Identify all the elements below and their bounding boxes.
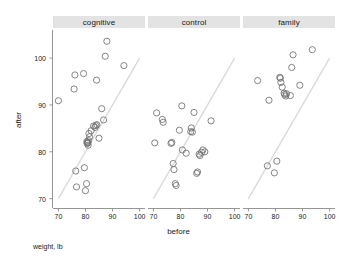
data-point xyxy=(191,109,197,115)
data-point xyxy=(83,181,89,187)
data-point xyxy=(309,47,315,53)
data-point xyxy=(152,140,158,146)
x-axis-tick-label: 90 xyxy=(299,213,307,220)
data-point xyxy=(82,188,88,194)
data-point xyxy=(99,106,105,112)
data-point xyxy=(154,110,160,116)
x-axis-tick-label: 100 xyxy=(229,213,241,220)
panel-strip-cognitive: cognitive xyxy=(53,16,145,28)
trellis-scatter-figure: cognitive control family 708090100 70809… xyxy=(0,0,357,258)
data-point xyxy=(81,165,87,171)
panel-family xyxy=(243,30,335,208)
data-point xyxy=(297,82,303,88)
data-point xyxy=(188,125,194,131)
data-point xyxy=(287,92,293,98)
data-point xyxy=(73,184,79,190)
data-point xyxy=(179,103,185,109)
data-point xyxy=(96,135,102,141)
data-point xyxy=(183,150,189,156)
panel-plot-area xyxy=(148,30,240,208)
x-axis-title: before xyxy=(0,227,357,236)
x-axis-tick-label: 80 xyxy=(177,213,185,220)
y-axis-tick-label: 90 xyxy=(20,101,46,108)
data-point xyxy=(104,38,110,44)
y-axis-tick-label: 100 xyxy=(20,55,46,62)
figure-caption: weight, lb xyxy=(33,243,63,250)
data-point xyxy=(102,53,108,59)
panel-plot-area xyxy=(53,30,145,208)
data-point xyxy=(176,127,182,133)
data-point xyxy=(55,98,61,104)
x-axis-tick-label: 100 xyxy=(324,213,336,220)
data-point xyxy=(71,86,77,92)
x-axis-tick-label: 90 xyxy=(109,213,117,220)
y-axis-title: after xyxy=(14,112,23,128)
panel-plot-area xyxy=(243,30,335,208)
data-point xyxy=(266,97,272,103)
panel-cognitive xyxy=(53,30,145,208)
x-axis-tick-label: 70 xyxy=(55,213,63,220)
data-point xyxy=(93,77,99,83)
data-point xyxy=(208,118,214,124)
panel-strip-label: cognitive xyxy=(83,18,115,27)
panel-strip-label: control xyxy=(182,18,207,27)
data-point xyxy=(274,158,280,164)
data-point xyxy=(255,77,261,83)
data-point xyxy=(290,52,296,58)
y-axis-tick-label: 70 xyxy=(20,195,46,202)
x-axis-tick-label: 70 xyxy=(150,213,158,220)
panel-strip-control: control xyxy=(148,16,240,28)
data-point xyxy=(171,166,177,172)
panel-strip-family: family xyxy=(243,16,335,28)
data-point xyxy=(271,170,277,176)
data-point xyxy=(72,72,78,78)
x-axis-tick-label: 100 xyxy=(134,213,146,220)
x-axis-tick-label: 80 xyxy=(272,213,280,220)
data-point xyxy=(289,64,295,70)
panel-strip-label: family xyxy=(278,18,300,27)
x-axis-tick-label: 90 xyxy=(204,213,212,220)
y-axis-tick-label: 80 xyxy=(20,148,46,155)
identity-reference-line xyxy=(58,58,139,199)
data-point xyxy=(121,63,127,69)
data-point xyxy=(80,70,86,76)
x-axis-tick-label: 70 xyxy=(245,213,253,220)
x-axis-tick-label: 80 xyxy=(82,213,90,220)
panel-control xyxy=(148,30,240,208)
